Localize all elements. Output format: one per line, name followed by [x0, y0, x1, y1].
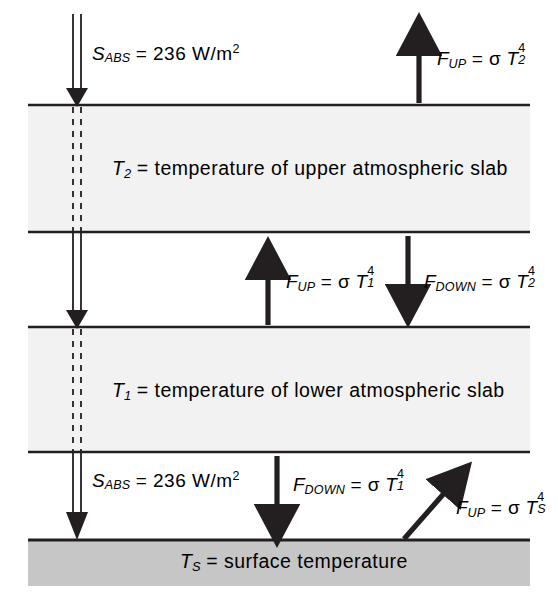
- arrow-fup-surface: [404, 490, 447, 539]
- label-fup-surface: FUP = σ T4S: [456, 495, 549, 519]
- label-solar-absorbed-surface: SABS = 236 W/m2: [92, 470, 240, 492]
- solar-beam-segment-toa: [66, 14, 88, 107]
- label-solar-absorbed-toa: SABS = 236 W/m2: [92, 43, 240, 65]
- solar-beam-segment-surface: [66, 452, 88, 540]
- label-lower-slab-temperature: T1 = temperature of lower atmospheric sl…: [112, 381, 505, 403]
- two-slab-atmosphere-diagram: SABS = 236 W/m2 FUP = σ T42 T2 = tempera…: [0, 0, 558, 604]
- label-surface-temperature: TS = surface temperature: [180, 552, 408, 574]
- label-fup-mid: FUP = σ T41: [286, 269, 379, 293]
- label-fdown-mid: FDOWN = σ T42: [424, 269, 540, 293]
- label-fdown-surface: FDOWN = σ T41: [293, 472, 409, 496]
- label-fup-toa: FUP = σ T42: [437, 46, 530, 70]
- solar-beam-segment-gap1: [66, 232, 88, 329]
- label-upper-slab-temperature: T2 = temperature of upper atmospheric sl…: [112, 159, 508, 181]
